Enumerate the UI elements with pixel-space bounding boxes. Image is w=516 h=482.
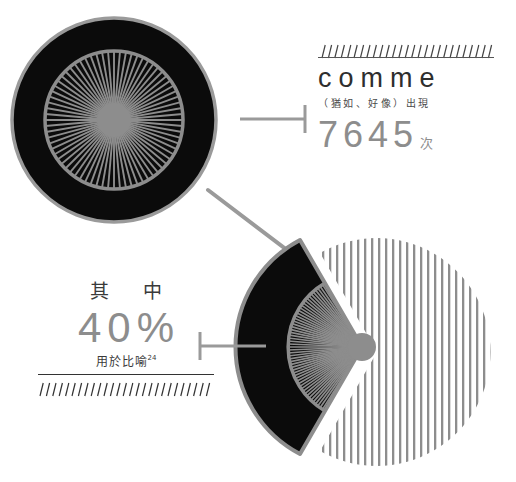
comme-count-unit: 次: [420, 133, 433, 155]
percent-hatch-area: [26, 374, 226, 396]
percent-note-superscript: 24: [148, 354, 157, 362]
disc-center-dot: [97, 103, 131, 137]
percent-note-row: 用於比喻24: [96, 352, 157, 370]
callout-comme: comme （猶如、好像）出現 7645 次: [318, 36, 500, 155]
percent-value: 40%: [26, 304, 226, 352]
comme-word: comme: [318, 61, 500, 95]
comme-rule: [318, 57, 494, 58]
percent-note: 用於比喻: [96, 355, 148, 369]
comme-count-row: 7645 次: [318, 115, 500, 155]
proportion-pie: [235, 230, 505, 480]
total-occurrences-disc: [12, 18, 216, 222]
percent-rule: [38, 374, 214, 375]
comme-hatch-area: [318, 36, 500, 58]
percent-prefix: 其 中: [26, 278, 226, 304]
infographic-root: comme （猶如、好像）出現 7645 次 其 中 40% 用於比喻24: [0, 0, 516, 482]
comme-count-value: 7645: [318, 115, 418, 155]
comme-gloss: （猶如、好像）出現: [318, 95, 500, 113]
callout-percent: 其 中 40% 用於比喻24: [26, 278, 226, 396]
pie-center-dot: [348, 333, 376, 361]
comme-leader: [240, 105, 306, 133]
